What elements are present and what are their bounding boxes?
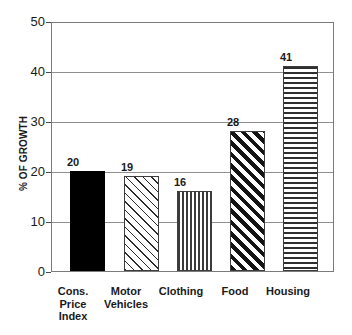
bar-clothing [177, 191, 212, 271]
value-label-food: 28 [214, 117, 252, 128]
y-tick-label-30: 30 [19, 115, 45, 128]
y-tick-label-40: 40 [19, 65, 45, 78]
category-label-cons-price-index: Cons. Price Index [49, 285, 97, 323]
y-tick-label-50: 50 [19, 15, 45, 28]
value-label-motor-vehicles: 19 [108, 162, 146, 173]
y-tick-label-0: 0 [19, 265, 45, 278]
category-label-clothing: Clothing [152, 285, 210, 298]
category-label-food: Food [211, 285, 259, 298]
category-label-housing: Housing [259, 285, 317, 298]
value-label-housing: 41 [267, 52, 305, 63]
bar-food [230, 131, 265, 271]
y-axis-title: % OF GROWTH [18, 89, 29, 219]
y-tick-label-10: 10 [19, 215, 45, 228]
bar-cons-price-index [70, 171, 105, 271]
value-label-clothing: 16 [161, 177, 199, 188]
category-label-motor-vehicles: Motor Vehicles [98, 285, 154, 310]
y-tick-mark-0 [46, 272, 51, 273]
value-label-cons-price-index: 20 [54, 157, 92, 168]
bar-housing [283, 66, 318, 271]
bar-chart: % OF GROWTH 50 40 30 20 10 0 20 19 16 28… [0, 0, 352, 335]
bar-motor-vehicles [124, 176, 159, 271]
y-tick-label-20: 20 [19, 165, 45, 178]
